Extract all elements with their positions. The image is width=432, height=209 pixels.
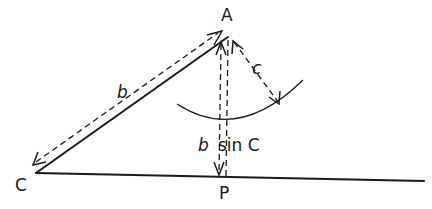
triangle-diagram: A C P b c b sin C [0,0,432,209]
label-side-b: b [117,82,128,102]
label-altitude-sin-c: sin C [218,135,260,155]
label-altitude-b: b [198,135,209,155]
arc-c [177,80,303,119]
label-p: P [219,183,229,203]
altitude-line [226,40,228,177]
label-a: A [221,5,233,25]
label-c: C [15,175,27,195]
arrowhead-b-lower [33,152,46,165]
label-side-c: c [252,58,262,78]
base-line [36,173,424,181]
